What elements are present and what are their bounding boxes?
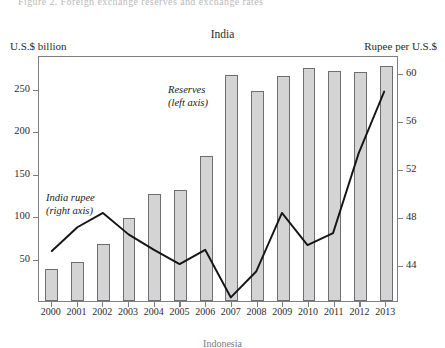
left-tick-200-mark [33, 132, 38, 133]
left-tick-100-mark [33, 217, 38, 218]
right-tick-52: 52 [406, 163, 417, 174]
annotation-rupee-label: India rupee [46, 192, 95, 205]
left-tick-150-mark [33, 175, 38, 176]
right-tick-56: 56 [406, 115, 417, 126]
annotation-rupee-axis: (right axis) [46, 205, 95, 218]
annotation-rupee: India rupee (right axis) [46, 192, 95, 217]
right-tick-60-mark [398, 74, 403, 75]
right-tick-48-mark [398, 218, 403, 219]
left-tick-100: 100 [0, 210, 30, 221]
line-series [39, 57, 397, 301]
left-tick-50: 50 [0, 253, 30, 264]
left-tick-200: 200 [0, 125, 30, 136]
right-tick-44: 44 [406, 259, 417, 270]
right-tick-48: 48 [406, 211, 417, 222]
left-tick-150: 150 [0, 168, 30, 179]
annotation-reserves-axis: (left axis) [168, 97, 208, 110]
right-tick-60: 60 [406, 67, 417, 78]
right-tick-56-mark [398, 122, 403, 123]
left-tick-50-mark [33, 260, 38, 261]
right-tick-52-mark [398, 170, 403, 171]
chart-title: India [0, 28, 445, 40]
left-axis-caption: U.S.$ billion [10, 40, 67, 52]
plot-area [38, 56, 398, 302]
right-tick-44-mark [398, 266, 403, 267]
chart-figure: Figure 2. Foreign exchange reserves and … [0, 0, 445, 348]
left-tick-250: 250 [0, 83, 30, 94]
annotation-reserves: Reserves (left axis) [168, 84, 208, 109]
clipped-footer-caption: Indonesia [0, 338, 445, 348]
clipped-figure-caption: Figure 2. Foreign exchange reserves and … [18, 0, 318, 8]
x-label-2013: 2013 [369, 306, 401, 317]
annotation-reserves-label: Reserves [168, 84, 208, 97]
left-tick-250-mark [33, 90, 38, 91]
right-axis-caption: Rupee per U.S.$ [364, 40, 437, 52]
